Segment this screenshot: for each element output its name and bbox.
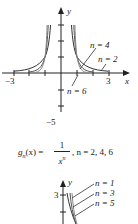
curve-n2 [14,25,51,71]
formula-caption: gn(x) = 1 xn , n = 2, 4, 6 [18,140,138,164]
annotation-n6: n = 6 [67,86,87,96]
annotation-n3: n = 3 [95,188,115,198]
leader-n5 [75,204,94,216]
annotation-n2: n = 2 [98,54,118,64]
x-tick-label-neg3: −3 [5,76,15,86]
y-tick-label-neg5: −5 [46,117,56,127]
bottom-chart: y 3 n = 1 n = 3 n = 5 [54,177,115,224]
y-axis-arrow-icon [58,7,64,14]
curve-n6 [33,25,47,73]
leader-n3 [73,194,94,207]
x-axis-label: x [124,76,129,86]
leader-n2 [101,64,106,71]
curve-n6-right [75,25,89,73]
chart-canvas: y x −3 3 −5 n = 4 n = 2 n = 6 y 3 n = 1 … [0,0,138,224]
annotation-n4: n = 4 [90,40,110,50]
formula-lhs: gn(x) = [18,147,43,159]
x-tick-label-3: 3 [106,76,111,86]
formula-lhs-rest: (x) = [26,147,44,157]
leader-n6 [72,75,78,86]
formula-numerator: 1 [54,140,70,150]
formula-rhs: , n = 2, 4, 6 [72,147,113,157]
annotation-n5: n = 5 [95,198,115,208]
y-tick-label-3: 3 [54,190,59,200]
annotation-n1: n = 1 [95,178,115,188]
y-axis-bottom-label: y [67,177,72,187]
formula-fraction: 1 xn [54,140,70,166]
formula-denominator: xn [54,153,70,166]
formula-den-sup: n [63,155,66,161]
y-axis-bottom-arrow-icon [60,180,66,187]
leader-n4 [80,48,96,69]
curve-n4 [29,25,48,72]
fraction-bar [54,151,70,152]
y-axis-label: y [66,6,71,16]
top-chart: y x −3 3 −5 n = 4 n = 2 n = 6 [2,6,130,127]
